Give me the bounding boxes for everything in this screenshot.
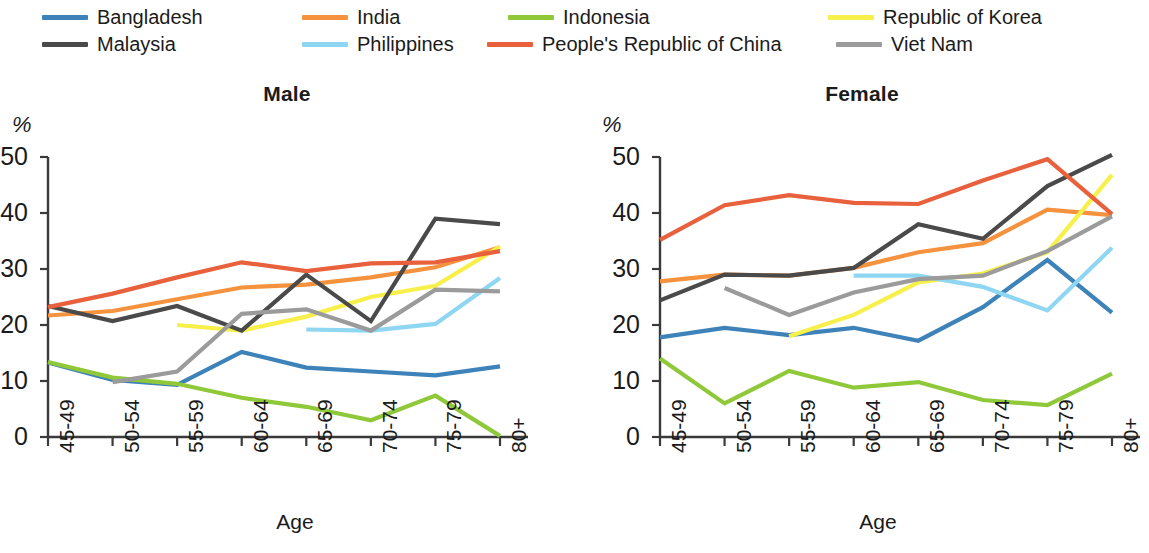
legend-label: Republic of Korea [883, 7, 1042, 27]
legend-label: People's Republic of China [542, 34, 782, 54]
x-axis-tick-label: 50-54 [121, 399, 142, 453]
legend-item-indonesia[interactable]: Indonesia [508, 7, 650, 27]
legend-label: Indonesia [563, 7, 650, 27]
x-axis-title-female: Age [818, 510, 938, 534]
y-axis-tick-label: 10 [594, 368, 640, 393]
y-axis-tick-label: 50 [594, 144, 640, 169]
y-axis-tick-label: 10 [0, 368, 28, 393]
legend-label: Bangladesh [97, 7, 203, 27]
legend-swatch-icon [42, 15, 88, 20]
chart-legend: BangladeshIndiaIndonesiaRepublic of Kore… [0, 0, 1149, 62]
x-axis-tick-label: 60-64 [862, 399, 883, 453]
x-axis-tick-label: 55-59 [797, 399, 818, 453]
y-axis-tick-label: 0 [0, 424, 28, 449]
legend-item-india[interactable]: India [302, 7, 400, 27]
legend-item-viet-nam[interactable]: Viet Nam [836, 34, 973, 54]
legend-label: Viet Nam [891, 34, 973, 54]
y-axis-tick-label: 40 [594, 200, 640, 225]
legend-swatch-icon [836, 42, 882, 47]
series-line-indonesia[interactable] [48, 362, 500, 436]
x-axis-tick-label: 65-69 [314, 399, 335, 453]
x-axis-tick-label: 60-64 [250, 399, 271, 453]
chart-axes [48, 157, 528, 437]
y-axis-tick-label: 20 [0, 312, 28, 337]
x-axis-title-male: Age [235, 510, 355, 534]
line-chart-svg [575, 62, 1149, 553]
legend-swatch-icon [828, 15, 874, 20]
legend-swatch-icon [508, 15, 554, 20]
line-chart-svg [0, 62, 574, 553]
x-axis-tick-label: 75-79 [1055, 399, 1076, 453]
x-axis-tick-label: 70-74 [991, 399, 1012, 453]
x-axis-tick-label: 80+ [1120, 417, 1141, 453]
legend-swatch-icon [302, 15, 348, 20]
series-line-malaysia[interactable] [660, 155, 1112, 301]
legend-label: Philippines [357, 34, 454, 54]
y-axis-tick-label: 30 [594, 256, 640, 281]
y-axis-tick-label: 40 [0, 200, 28, 225]
series-line-philippines[interactable] [306, 278, 500, 331]
series-line-people-s-republic-of-china[interactable] [660, 159, 1112, 240]
legend-swatch-icon [487, 42, 533, 47]
x-axis-tick-label: 65-69 [926, 399, 947, 453]
x-axis-tick-label: 70-74 [379, 399, 400, 453]
y-axis-tick-label: 0 [594, 424, 640, 449]
legend-item-malaysia[interactable]: Malaysia [42, 34, 176, 54]
series-line-people-s-republic-of-china[interactable] [48, 251, 500, 307]
legend-swatch-icon [302, 42, 348, 47]
legend-row-2: MalaysiaPhilippinesPeople's Republic of … [0, 31, 1149, 57]
series-line-indonesia[interactable] [660, 359, 1112, 406]
chart-panel-male: Male % Age 0102030405045-4950-5455-5960-… [0, 62, 574, 553]
series-line-malaysia[interactable] [48, 219, 500, 331]
legend-item-bangladesh[interactable]: Bangladesh [42, 7, 203, 27]
x-axis-tick-label: 50-54 [733, 399, 754, 453]
x-axis-tick-label: 55-59 [185, 399, 206, 453]
x-axis-tick-label: 45-49 [56, 399, 77, 453]
plot-area-male [0, 62, 574, 553]
y-axis-tick-label: 50 [0, 144, 28, 169]
legend-label: Malaysia [97, 34, 176, 54]
x-axis-tick-label: 75-79 [443, 399, 464, 453]
legend-label: India [357, 7, 400, 27]
x-axis-tick-label: 80+ [508, 417, 529, 453]
chart-panel-female: Female % Age 0102030405045-4950-5455-596… [575, 62, 1149, 553]
y-axis-tick-label: 30 [0, 256, 28, 281]
legend-swatch-icon [42, 42, 88, 47]
legend-item-people-s-republic-of-china[interactable]: People's Republic of China [487, 34, 782, 54]
plot-area-female [575, 62, 1149, 553]
y-axis-tick-label: 20 [594, 312, 640, 337]
legend-item-philippines[interactable]: Philippines [302, 34, 454, 54]
legend-item-republic-of-korea[interactable]: Republic of Korea [828, 7, 1042, 27]
legend-row-1: BangladeshIndiaIndonesiaRepublic of Kore… [0, 4, 1149, 30]
x-axis-tick-label: 45-49 [668, 399, 689, 453]
